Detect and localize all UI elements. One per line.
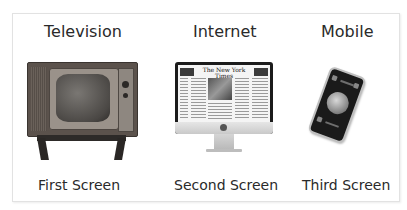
ad-box (254, 68, 268, 76)
status-bar (340, 80, 354, 87)
imac-computer-icon: The New York Times (175, 62, 273, 158)
caption-second-screen: Second Screen (174, 177, 278, 193)
text-column (208, 103, 232, 120)
tv-bezel (49, 68, 119, 130)
app-icon (331, 75, 337, 81)
text-column (191, 78, 206, 120)
globe-icon (324, 89, 352, 117)
tv-knob-icon (123, 93, 128, 98)
app-icon (353, 83, 359, 89)
heading-television: Television (44, 22, 122, 41)
text-column (180, 78, 188, 120)
caption-third-screen: Third Screen (302, 177, 390, 193)
newspaper-masthead: The New York Times (198, 67, 250, 73)
caption-first-screen: First Screen (38, 177, 120, 193)
imac-foot (206, 149, 242, 152)
status-bar (325, 121, 339, 128)
heading-mobile: Mobile (321, 22, 373, 41)
heading-internet: Internet (193, 22, 257, 41)
apple-logo-icon (220, 124, 227, 131)
imac-display: The New York Times (175, 62, 273, 134)
ad-box (180, 68, 194, 76)
television-icon (27, 62, 136, 160)
app-icon (316, 116, 322, 122)
tv-screen (56, 74, 110, 122)
tv-speaker-grill (31, 67, 47, 131)
imac-stand (214, 134, 234, 150)
tv-control-panel (118, 68, 134, 132)
text-column (235, 78, 249, 120)
tv-base (37, 135, 126, 141)
tv-cabinet (27, 62, 138, 137)
tv-knob-icon (122, 81, 129, 88)
article-photo (208, 78, 232, 100)
newspaper-webpage: The New York Times (178, 65, 270, 122)
tv-leg (37, 138, 49, 160)
text-column (252, 78, 268, 120)
tv-leg (114, 138, 126, 160)
